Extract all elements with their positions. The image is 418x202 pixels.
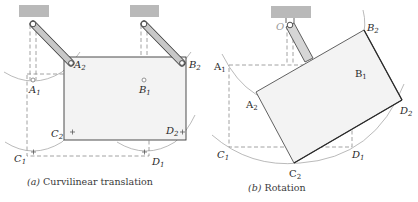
- label-c1: C1: [14, 153, 26, 166]
- ground-support-right: [130, 5, 159, 17]
- panel-a-curvilinear-translation: A2 B2 A1 B1 C2 D2 C1 D1 (a)Curvilinear t…: [4, 5, 201, 187]
- link-left: [30, 21, 73, 65]
- pin-b1: [142, 78, 146, 82]
- label-d2-b: D2: [399, 105, 413, 118]
- label-a1-b: A1: [213, 61, 226, 74]
- label-o: O: [276, 21, 284, 32]
- label-c2: C2: [51, 128, 64, 141]
- label-d1-b: D1: [351, 149, 365, 162]
- label-c2-b: C2: [289, 168, 301, 181]
- caption-a: (a)Curvilinear translation: [27, 176, 153, 187]
- pin-a1: [31, 78, 35, 82]
- caption-b: (b)Rotation: [248, 182, 306, 193]
- link-center: [286, 18, 313, 62]
- label-a1: A1: [28, 84, 41, 97]
- rigid-body-motion-diagram: A2 B2 A1 B1 C2 D2 C1 D1 (a)Curvilinear t…: [0, 0, 418, 202]
- label-c1-b: C1: [217, 149, 229, 162]
- label-d1: D1: [151, 156, 165, 169]
- label-b2: B2: [188, 59, 201, 72]
- ground-support-left: [19, 5, 49, 17]
- panel-b-rotation: O A1 B1 B2 A2 D2 C1 D1 C2 (b)Rotation: [212, 6, 413, 193]
- ground-support-center: [271, 6, 311, 18]
- label-a2-b: A2: [245, 99, 258, 112]
- label-b2-b: B2: [366, 22, 379, 35]
